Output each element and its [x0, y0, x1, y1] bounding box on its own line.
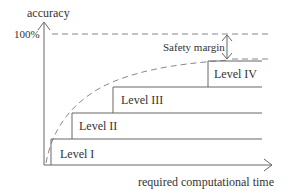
y-axis: [38, 22, 50, 165]
y-axis-label: accuracy: [27, 6, 70, 20]
level-1-label: Level I: [60, 147, 94, 161]
level-3-label: Level III: [121, 93, 163, 107]
level-4-label: Level IV: [214, 67, 257, 81]
accuracy-vs-time-diagram: accuracy 100% required computational tim…: [0, 0, 291, 193]
x-axis-label: required computational time: [138, 175, 274, 189]
level-2-label: Level II: [79, 119, 117, 133]
y-tick-100: 100%: [14, 28, 40, 40]
safety-margin-label: Safety margin: [163, 41, 225, 53]
